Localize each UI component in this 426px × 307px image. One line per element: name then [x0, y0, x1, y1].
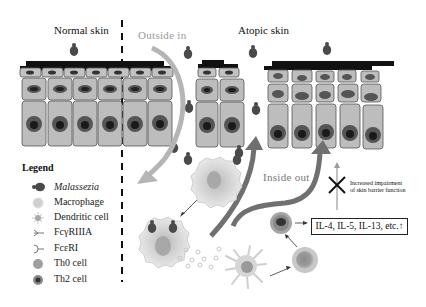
legend-item-malassezia: Malassezia — [54, 181, 99, 192]
barrier-impairment-note: Increased impairment of skin barrier fun… — [350, 180, 405, 194]
malassezia-icon — [70, 43, 78, 56]
th2-cell-icon — [270, 212, 292, 234]
macrophage-icon — [33, 198, 43, 208]
legend-item-th2-cell: Th2 cell — [54, 273, 87, 284]
th2-cell-icon — [33, 275, 43, 285]
inside-out-arrow-head-1 — [245, 136, 263, 150]
macrophage-icon — [184, 152, 242, 208]
atopic-dermatitis-diagram: Normal skin Atopic skin Outside in Insid… — [0, 0, 426, 307]
normal-skin-epidermis — [20, 43, 174, 146]
barrier-impairment-line2: of skin barrier function — [350, 187, 405, 194]
inside-out-label: Inside out — [263, 171, 310, 183]
atopic-skin-epidermis-right — [264, 61, 394, 149]
th0-cell-icon — [292, 247, 318, 273]
legend-item-th0-cell: Th0 cell — [54, 257, 87, 268]
macrophage-icon — [139, 217, 190, 268]
legend-title: Legend — [22, 162, 54, 173]
barrier-impairment-line1: Increased impairment — [350, 180, 405, 187]
legend-item-fcepsilonri: FcεRI — [54, 242, 78, 253]
legend-item-fcgammariiia: FcγRIIIA — [54, 226, 92, 237]
atopic-skin-label: Atopic skin — [238, 24, 289, 36]
fcgammariiia-receptor-icon — [34, 230, 44, 236]
malassezia-icon — [32, 183, 45, 191]
legend-item-macrophage: Macrophage — [54, 196, 104, 207]
th0-cell-icon — [33, 259, 43, 269]
dendritic-cell-icon — [32, 212, 44, 224]
normal-skin-label: Normal skin — [54, 24, 109, 36]
legend-icons — [32, 183, 45, 285]
fcepsilonri-receptor-icon — [34, 245, 44, 253]
legend-item-dendritic-cell: Dendritic cell — [54, 211, 109, 222]
atopic-skin-epidermis-left — [196, 60, 244, 147]
cytokine-box: IL-4, IL-5, IL-13, etc.↑ — [311, 218, 408, 235]
dendritic-cell-icon — [226, 246, 266, 288]
outside-in-label: Outside in — [138, 29, 187, 41]
